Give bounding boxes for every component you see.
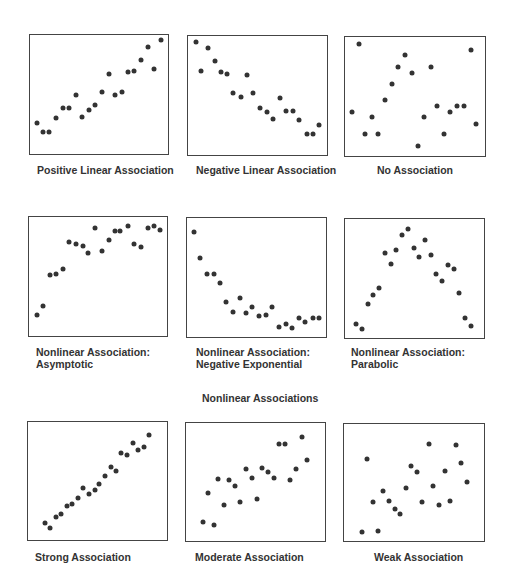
data-point — [205, 271, 210, 276]
data-point — [264, 312, 269, 317]
data-point — [60, 106, 65, 111]
data-point — [108, 465, 113, 470]
panel-negative-exponential — [186, 217, 327, 338]
data-point — [221, 502, 226, 507]
data-point — [271, 476, 276, 481]
data-point — [422, 115, 427, 120]
data-point — [47, 273, 52, 278]
data-point — [462, 316, 467, 321]
panel-strong — [27, 421, 168, 541]
data-point — [119, 90, 124, 95]
data-point — [139, 57, 144, 62]
data-point — [59, 512, 64, 517]
data-point — [417, 255, 422, 260]
data-point — [251, 91, 256, 96]
data-point — [428, 253, 433, 258]
panel-moderate — [185, 422, 326, 542]
data-point — [67, 239, 72, 244]
data-point — [145, 44, 150, 49]
data-point — [297, 118, 302, 123]
data-point — [276, 442, 281, 447]
data-point — [257, 106, 262, 111]
data-point — [264, 110, 269, 115]
panel-asymptotic — [28, 216, 168, 337]
data-point — [70, 502, 75, 507]
data-point — [404, 485, 409, 490]
data-point — [219, 70, 224, 75]
data-point — [270, 117, 275, 122]
data-point — [394, 247, 399, 252]
data-point — [454, 104, 459, 109]
data-point — [257, 314, 262, 319]
data-point — [376, 132, 381, 137]
data-point — [93, 103, 98, 108]
data-point — [296, 315, 301, 320]
data-point — [266, 469, 271, 474]
data-point — [244, 73, 249, 78]
data-point — [468, 323, 473, 328]
data-point — [415, 144, 420, 149]
data-point — [206, 45, 211, 50]
data-point — [371, 292, 376, 297]
data-point — [282, 442, 287, 447]
data-point — [441, 132, 446, 137]
data-point — [381, 488, 386, 493]
data-point — [369, 115, 374, 120]
data-point — [464, 479, 469, 484]
data-point — [218, 280, 223, 285]
panel-weak — [343, 423, 485, 542]
data-point — [199, 68, 204, 73]
data-point — [92, 488, 97, 493]
data-point — [54, 271, 59, 276]
data-point — [100, 90, 105, 95]
data-point — [353, 321, 358, 326]
data-point — [125, 453, 130, 458]
data-point — [125, 70, 130, 75]
data-point — [40, 129, 45, 134]
panel-negative-linear — [187, 35, 328, 156]
data-point — [198, 255, 203, 260]
data-point — [447, 109, 452, 114]
data-point — [86, 108, 91, 113]
section-label-nonlinear: Nonlinear Associations — [202, 392, 318, 404]
data-point — [47, 526, 52, 531]
data-point — [141, 444, 146, 449]
data-point — [377, 285, 382, 290]
data-point — [81, 486, 86, 491]
data-point — [125, 223, 130, 228]
data-point — [434, 272, 439, 277]
data-point — [445, 262, 450, 267]
data-point — [135, 447, 140, 452]
data-point — [211, 522, 216, 527]
data-point — [243, 311, 248, 316]
panel-parabolic — [344, 218, 485, 339]
data-point — [254, 497, 259, 502]
data-point — [389, 81, 394, 86]
data-point — [74, 242, 79, 247]
data-point — [231, 91, 236, 96]
label-weak: Weak Association — [374, 551, 463, 563]
data-point — [431, 484, 436, 489]
data-point — [270, 305, 275, 310]
data-point — [399, 233, 404, 238]
data-point — [86, 492, 91, 497]
data-point — [75, 495, 80, 500]
data-point — [435, 104, 440, 109]
data-point — [402, 53, 407, 58]
data-point — [47, 129, 52, 134]
data-point — [152, 224, 157, 229]
data-point — [118, 229, 123, 234]
data-point — [34, 313, 39, 318]
label-asymptotic: Nonlinear Association: Asymptotic — [36, 346, 150, 370]
data-point — [192, 230, 197, 235]
data-point — [97, 481, 102, 486]
data-point — [100, 248, 105, 253]
data-point — [227, 478, 232, 483]
data-point — [86, 251, 91, 256]
data-point — [132, 69, 137, 74]
data-point — [238, 94, 243, 99]
data-point — [436, 503, 441, 508]
data-point — [387, 498, 392, 503]
data-point — [474, 121, 479, 126]
data-point — [73, 93, 78, 98]
